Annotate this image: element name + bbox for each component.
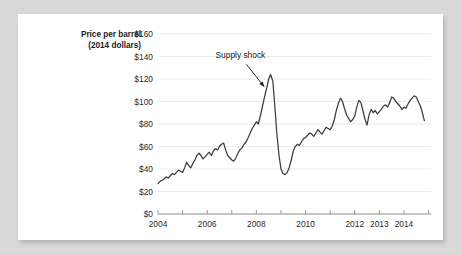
x-axis-tick-label: 2004 — [149, 219, 168, 229]
annotation-group: Supply shock — [215, 50, 266, 87]
y-axis-tick-label: $100 — [134, 97, 153, 107]
y-axis-tick-labels: $0$20$40$60$80$100$120$140$160 — [134, 29, 153, 219]
y-axis-tick-label: $20 — [139, 187, 153, 197]
x-axis-tick-label: 2014 — [395, 219, 414, 229]
y-axis-tick-label: $140 — [134, 52, 153, 62]
x-axis-group — [158, 210, 431, 214]
annotation-label: Supply shock — [215, 50, 266, 60]
y-axis-title-line2: (2014 dollars) — [88, 41, 141, 50]
chart-card: $0$20$40$60$80$100$120$140$160 200420062… — [18, 14, 443, 240]
y-axis-tick-label: $80 — [139, 119, 153, 129]
x-axis-tick-label: 2012 — [345, 219, 364, 229]
x-axis-tick-label: 2008 — [247, 219, 266, 229]
series-line — [158, 75, 424, 184]
x-axis-tick-labels: 2004200620082010201220132014 — [149, 219, 414, 229]
y-axis-title-line1: Price per barrel — [81, 30, 141, 39]
data-series-group — [158, 75, 424, 184]
y-axis-tick-label: $40 — [139, 164, 153, 174]
x-axis-tick-label: 2013 — [370, 219, 389, 229]
y-axis-tick-label: $0 — [144, 209, 154, 219]
y-axis-tick-label: $120 — [134, 74, 153, 84]
y-axis-tick-label: $60 — [139, 142, 153, 152]
x-axis-tick-label: 2010 — [296, 219, 315, 229]
x-axis-tick-label: 2006 — [198, 219, 217, 229]
gridlines-group — [158, 34, 431, 192]
oil-price-line-chart: $0$20$40$60$80$100$120$140$160 200420062… — [18, 14, 443, 240]
